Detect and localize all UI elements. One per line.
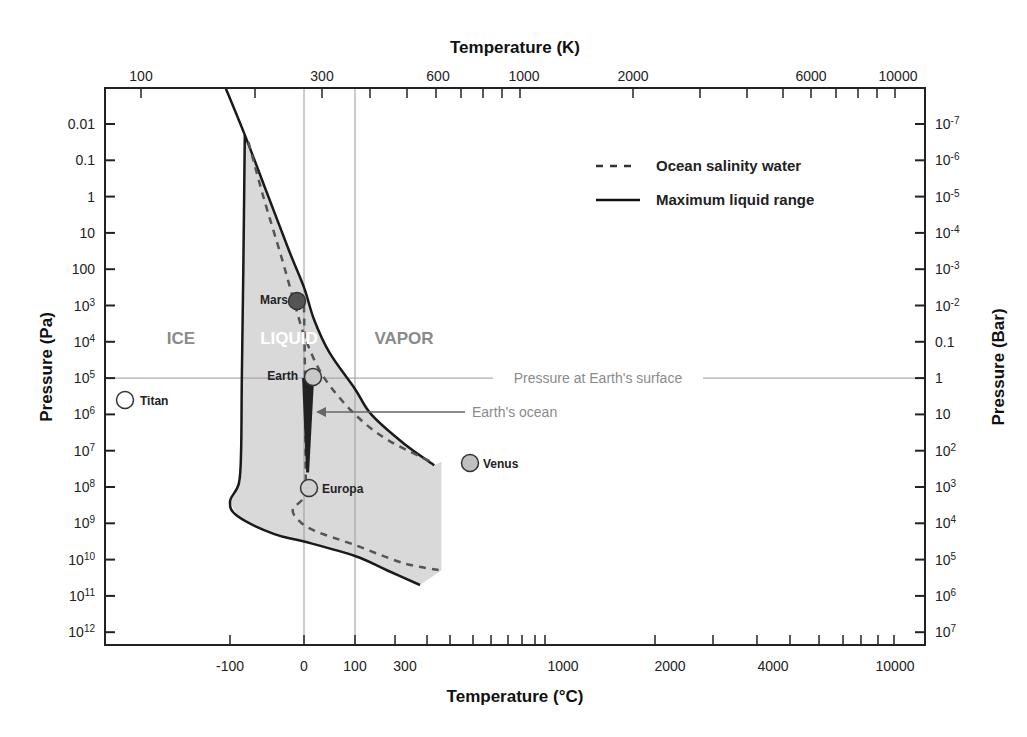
bottom-tick-label: 10000 [876, 658, 915, 674]
left-tick-label: 105 [74, 369, 96, 386]
bottom-axis-title: Temperature (°C) [447, 687, 584, 706]
earths-ocean-label: Earth's ocean [472, 404, 557, 420]
right-tick-label: 0.1 [935, 334, 955, 350]
right-tick-label: 107 [935, 623, 957, 640]
right-tick-label: 10-5 [935, 188, 960, 205]
right-tick-label: 10-3 [935, 260, 960, 277]
region-label-liquid: LIQUID [260, 329, 318, 348]
plot-frame [105, 88, 925, 645]
left-tick-label: 104 [74, 333, 96, 350]
bottom-tick-label: 300 [393, 658, 417, 674]
top-tick-label: 2000 [617, 68, 648, 84]
region-label-vapor: VAPOR [374, 329, 433, 348]
left-tick-label: 1012 [68, 623, 95, 640]
left-tick-label: 1011 [69, 587, 95, 604]
top-tick-label: 100 [129, 68, 153, 84]
right-axis-title: Pressure (Bar) [989, 308, 1008, 425]
right-tick-label: 106 [935, 587, 957, 604]
planet-label-mars: Mars [260, 293, 288, 307]
left-tick-label: 0.01 [68, 116, 95, 132]
left-tick-label: 100 [72, 261, 96, 277]
left-tick-label: 103 [74, 297, 96, 314]
left-tick-label: 109 [74, 514, 96, 531]
bottom-tick-label: 0 [300, 658, 308, 674]
top-axis-title: Temperature (K) [450, 38, 580, 57]
right-tick-label: 10-2 [935, 297, 960, 314]
legend-label: Maximum liquid range [656, 191, 814, 208]
top-tick-label: 300 [310, 68, 334, 84]
left-tick-label: 107 [74, 442, 96, 459]
right-tick-label: 102 [935, 442, 957, 459]
reference-lines [105, 88, 925, 645]
plot-border [105, 88, 925, 645]
planet-label-venus: Venus [483, 457, 519, 471]
left-axis-title: Pressure (Pa) [37, 312, 56, 422]
left-tick-label: 108 [74, 478, 96, 495]
left-tick-label: 0.1 [76, 152, 96, 168]
right-tick-label: 10-4 [935, 224, 960, 241]
liquid-region-shade [230, 135, 441, 585]
bottom-tick-label: 2000 [654, 658, 685, 674]
bottom-tick-label: 4000 [757, 658, 788, 674]
planet-marker-venus [462, 455, 479, 472]
top-tick-label: 6000 [795, 68, 826, 84]
planet-label-earth: Earth [267, 369, 298, 383]
earth-surface-pressure-label: Pressure at Earth's surface [514, 370, 683, 386]
right-tick-label: 104 [935, 514, 957, 531]
planet-marker-earth [305, 369, 322, 386]
top-tick-label: 600 [426, 68, 450, 84]
bottom-tick-label: 1000 [547, 658, 578, 674]
right-tick-label: 1 [935, 370, 943, 386]
planet-marker-mars [289, 293, 306, 310]
legend-label: Ocean salinity water [656, 157, 801, 174]
left-tick-label: 10 [79, 225, 95, 241]
shade-layer [230, 135, 441, 585]
region-label-ice: ICE [167, 329, 195, 348]
right-tick-label: 10-7 [935, 115, 960, 132]
bottom-tick-label: 100 [343, 658, 367, 674]
phase-diagram-chart: 0.010.1110100103104105106107108109101010… [0, 0, 1027, 737]
top-tick-label: 1000 [508, 68, 539, 84]
planet-label-titan: Titan [140, 394, 168, 408]
planet-marker-europa [301, 480, 318, 497]
left-tick-label: 106 [74, 405, 96, 422]
top-tick-label: 10000 [879, 68, 918, 84]
right-tick-label: 105 [935, 551, 957, 568]
right-tick-label: 10 [935, 406, 951, 422]
planet-marker-titan [117, 392, 134, 409]
right-tick-label: 103 [935, 478, 957, 495]
bottom-tick-label: -100 [216, 658, 244, 674]
left-tick-label: 1 [87, 189, 95, 205]
planet-label-europa: Europa [322, 482, 364, 496]
left-tick-label: 1010 [68, 551, 95, 568]
legend: Ocean salinity waterMaximum liquid range [596, 157, 814, 208]
right-tick-label: 10-6 [935, 151, 960, 168]
